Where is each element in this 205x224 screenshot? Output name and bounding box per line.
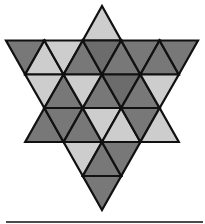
triangle-tile-dark: [83, 176, 121, 210]
triangle-tiles: [6, 6, 198, 210]
bottom-rule-divider: [6, 221, 203, 223]
triangle-tile-light: [83, 6, 121, 41]
hexagram-figure: [0, 0, 205, 224]
